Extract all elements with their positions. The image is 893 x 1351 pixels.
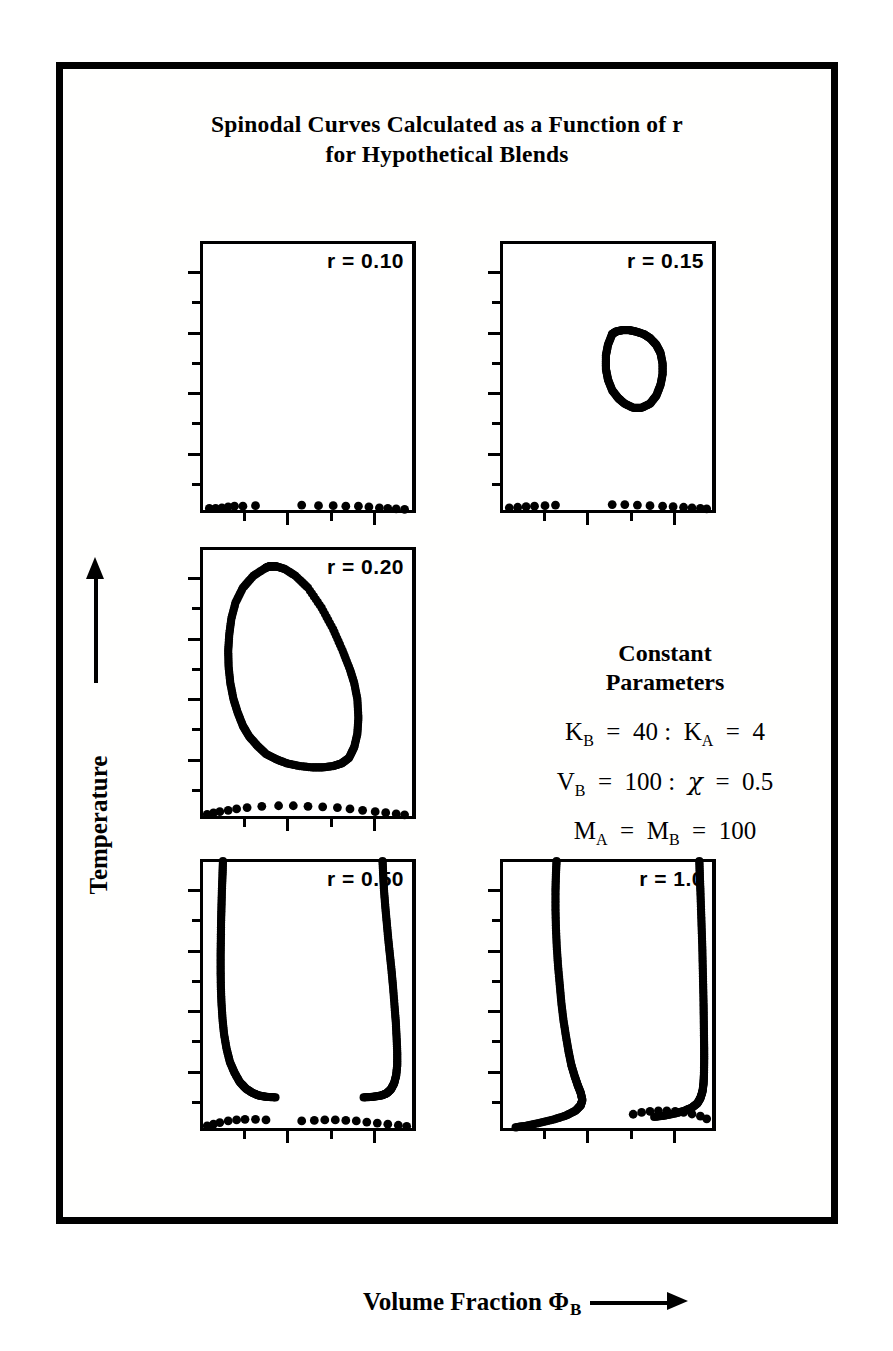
equation-row-3: MA = MB = 100	[515, 817, 815, 845]
eq2-equals-2: =	[709, 768, 736, 795]
x-axis-tick	[373, 1131, 376, 1143]
series-bottom-axis-points	[203, 1115, 411, 1131]
x-axis-tick	[373, 819, 376, 831]
y-axis-tick	[488, 1010, 500, 1013]
y-axis-tick	[192, 483, 200, 486]
y-axis-tick	[188, 698, 200, 701]
y-axis-tick	[488, 889, 500, 892]
equation-row-1: KB = 40 : KA = 4	[515, 718, 815, 746]
figure-frame: Spinodal Curves Calculated as a Function…	[56, 62, 838, 1224]
eq2-lhs-value: 100	[625, 768, 663, 795]
panel-plot-area	[200, 859, 416, 1131]
eq2-chi-symbol: χ	[688, 767, 703, 796]
y-axis-tick	[488, 453, 500, 456]
equation-row-2: VB = 100 : χ = 0.5	[515, 767, 815, 796]
panel-plot-area	[200, 547, 416, 819]
y-axis-tick	[192, 980, 200, 983]
x-axis-label-symbol: Φ	[548, 1288, 569, 1315]
x-axis-tick	[243, 513, 246, 521]
eq3-rhs-symbol: M	[647, 817, 669, 844]
y-axis-tick	[488, 271, 500, 274]
x-axis-tick	[586, 513, 589, 525]
y-axis-tick	[492, 980, 500, 983]
y-axis-tick	[492, 1101, 500, 1104]
y-axis-tick	[188, 392, 200, 395]
y-axis-label: Temperature	[73, 549, 117, 1199]
y-axis-tick	[492, 301, 500, 304]
y-axis-tick	[192, 789, 200, 792]
panel-r-015: r = 0.15	[500, 241, 716, 513]
series-bottom-axis-points	[205, 501, 409, 514]
y-axis-tick	[488, 950, 500, 953]
series-bottom-axis-points	[505, 500, 711, 513]
y-axis-tick	[192, 301, 200, 304]
panel-plot-area	[500, 859, 716, 1131]
y-axis-tick	[188, 271, 200, 274]
eq1-lhs-subscript: B	[583, 732, 594, 749]
x-axis-label: Volume Fraction ΦB	[363, 1284, 688, 1320]
page-title: Spinodal Curves Calculated as a Function…	[63, 109, 831, 169]
eq1-equals-1: =	[600, 718, 627, 745]
series-left-branch	[512, 857, 587, 1132]
eq1-colon: :	[658, 718, 677, 745]
y-axis-tick	[188, 889, 200, 892]
x-axis-tick	[286, 513, 289, 525]
x-axis-tick	[673, 513, 676, 525]
y-axis-tick	[488, 392, 500, 395]
eq1-rhs-value: 4	[752, 718, 765, 745]
x-axis-tick	[243, 1131, 246, 1139]
series-left-branch	[217, 857, 280, 1102]
eq1-equals-2: =	[720, 718, 747, 745]
y-axis-tick	[192, 1101, 200, 1104]
eq1-rhs-subscript: A	[702, 732, 714, 749]
eq3-lhs-subscript: A	[596, 831, 608, 848]
y-axis-tick	[492, 362, 500, 365]
eq3-rhs-subscript: B	[669, 831, 680, 848]
eq3-lhs-symbol: M	[574, 817, 596, 844]
x-axis-tick	[543, 513, 546, 521]
y-axis-tick	[192, 919, 200, 922]
eq2-rhs-value: 0.5	[742, 768, 773, 795]
y-axis-tick	[192, 362, 200, 365]
panel-r-010: r = 0.10	[200, 241, 416, 513]
x-axis-tick	[330, 513, 333, 521]
eq1-lhs-value: 40	[633, 718, 658, 745]
eq2-lhs-symbol: V	[557, 768, 575, 795]
x-axis-tick	[630, 513, 633, 521]
x-axis-tick	[543, 1131, 546, 1139]
x-axis-tick	[330, 819, 333, 827]
y-axis-tick	[192, 422, 200, 425]
y-axis-tick	[488, 332, 500, 335]
y-axis-tick	[188, 1071, 200, 1074]
x-axis-tick	[286, 1131, 289, 1143]
y-axis-tick	[188, 453, 200, 456]
panel-r-100: r = 1.0	[500, 859, 716, 1131]
series-closed-loop	[224, 562, 362, 771]
x-axis-tick	[330, 1131, 333, 1139]
eq1-rhs-symbol: K	[684, 718, 702, 745]
eq3-equals-2: =	[686, 817, 713, 844]
constant-parameters-heading-line-1: Constant	[515, 639, 815, 668]
panel-r-050: r = 0.50	[200, 859, 416, 1131]
x-axis-tick	[373, 513, 376, 525]
series-bottom-axis-points	[203, 801, 409, 819]
y-axis-tick	[188, 759, 200, 762]
y-axis-tick	[188, 950, 200, 953]
panel-r-020: r = 0.20	[200, 547, 416, 819]
y-axis-tick	[492, 422, 500, 425]
constant-parameters-heading-line-2: Parameters	[515, 668, 815, 697]
x-axis-label-subscript: B	[570, 1300, 581, 1319]
y-axis-tick	[492, 1040, 500, 1043]
y-axis-tick	[192, 668, 200, 671]
eq3-equals-1: =	[614, 817, 641, 844]
y-axis-tick	[188, 577, 200, 580]
up-arrow-icon	[91, 557, 99, 683]
x-axis-tick	[243, 819, 246, 827]
x-axis-tick	[586, 1131, 589, 1143]
y-axis-tick	[488, 1071, 500, 1074]
panel-plot-area	[200, 241, 416, 513]
y-axis-tick	[192, 728, 200, 731]
y-axis-tick	[192, 1040, 200, 1043]
y-axis-tick	[188, 332, 200, 335]
title-line-1: Spinodal Curves Calculated as a Function…	[211, 111, 683, 137]
